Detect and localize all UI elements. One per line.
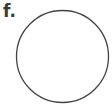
- circle-figure: [0, 0, 112, 106]
- circle-shape: [17, 11, 109, 103]
